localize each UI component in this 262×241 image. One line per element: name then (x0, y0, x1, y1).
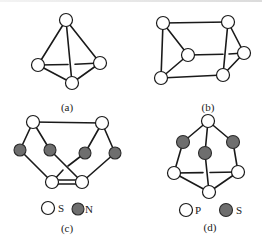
atom-d-s-right (227, 136, 240, 149)
legend-d-s-text: S (236, 204, 242, 216)
atom-c-n-1 (14, 144, 26, 156)
panel-a-label: (a) (61, 101, 74, 114)
atom-b-top-right (222, 16, 235, 29)
atom-b-top-left (157, 17, 170, 30)
panel-c-label: (c) (61, 222, 74, 235)
atom-d-p-right (232, 166, 245, 179)
legend-d-s-symbol (220, 204, 233, 217)
atom-a-top (60, 14, 73, 27)
atom-c-n-4 (109, 147, 121, 159)
legend-c-n-text: N (85, 203, 93, 215)
legend-c-n-symbol (72, 203, 84, 215)
atom-b-bottom-right (217, 69, 230, 82)
atom-c-s-top-left (27, 116, 40, 129)
atom-c-s-bottom-left (46, 176, 59, 189)
atom-b-bottom-left (155, 72, 168, 85)
legend-d: P S (180, 204, 243, 217)
atom-d-p-bottom (203, 186, 216, 199)
atom-d-p-top (202, 115, 215, 128)
atom-a-left (32, 59, 45, 72)
atom-d-s-left (177, 136, 190, 149)
atom-a-bottom (66, 77, 79, 90)
panel-b-label: (b) (202, 101, 215, 114)
atom-c-n-3 (79, 147, 91, 159)
atom-a-right (94, 57, 107, 70)
atom-c-s-top-right (96, 117, 109, 130)
legend-d-p-symbol (180, 204, 193, 217)
atom-b-middle (182, 49, 195, 62)
legend-c: S N (42, 202, 94, 216)
atom-d-p-left (168, 167, 181, 180)
legend-c-s-text: S (58, 202, 64, 214)
panel-a: (a) (32, 14, 107, 115)
molecular-structures-figure: (a) (b) (0, 0, 262, 241)
panel-d-label: (d) (204, 221, 217, 234)
atom-c-n-2 (44, 144, 56, 156)
atom-c-s-bottom-right (76, 176, 89, 189)
panel-c: S N (c) (14, 116, 121, 236)
atom-d-s-middle (199, 147, 212, 160)
panel-b: (b) (155, 16, 251, 115)
legend-c-s-symbol (42, 202, 55, 215)
panel-d: P S (d) (168, 115, 245, 235)
atom-b-right (238, 47, 251, 60)
legend-d-p-text: P (195, 204, 201, 216)
